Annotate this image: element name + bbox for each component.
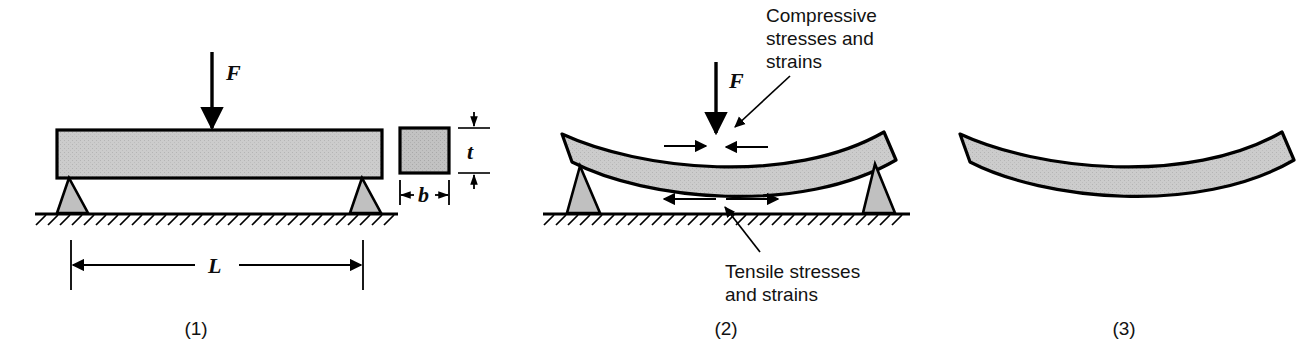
force-label-2: F bbox=[728, 68, 744, 93]
panel-1-caption: (1) bbox=[184, 318, 207, 339]
beam-specimen-3 bbox=[960, 132, 1294, 196]
cross-section-rect bbox=[400, 128, 449, 173]
tensile-label-line-1: Tensile stresses bbox=[725, 261, 860, 282]
bending-test-figure: F bbox=[0, 0, 1306, 360]
ground-2 bbox=[543, 214, 910, 225]
beam-specimen-1 bbox=[57, 130, 382, 178]
width-label-b: b bbox=[418, 182, 429, 207]
tensile-label-line-2: and strains bbox=[725, 284, 818, 305]
panel-2-group: Compressive stresses and strains F bbox=[543, 5, 910, 339]
panel-3-group: (3) bbox=[960, 132, 1294, 339]
panel-2-caption: (2) bbox=[714, 318, 737, 339]
compressive-label-line-2: stresses and bbox=[766, 28, 874, 49]
compressive-label-line-3: strains bbox=[766, 51, 822, 72]
force-label-1: F bbox=[225, 60, 241, 85]
span-label-1: L bbox=[207, 253, 221, 278]
panel-3-caption: (3) bbox=[1112, 318, 1135, 339]
beam-specimen-2 bbox=[562, 132, 896, 196]
support-right-1 bbox=[350, 178, 381, 213]
ground-1 bbox=[35, 214, 398, 225]
panel-1-group: F bbox=[35, 52, 490, 339]
compressive-label-line-1: Compressive bbox=[766, 5, 877, 26]
support-left-1 bbox=[57, 178, 88, 213]
figure-canvas: F bbox=[0, 0, 1306, 360]
thickness-label-t: t bbox=[467, 139, 474, 164]
compressive-stress-arrows bbox=[664, 146, 768, 147]
thickness-dimension-t bbox=[458, 112, 490, 189]
